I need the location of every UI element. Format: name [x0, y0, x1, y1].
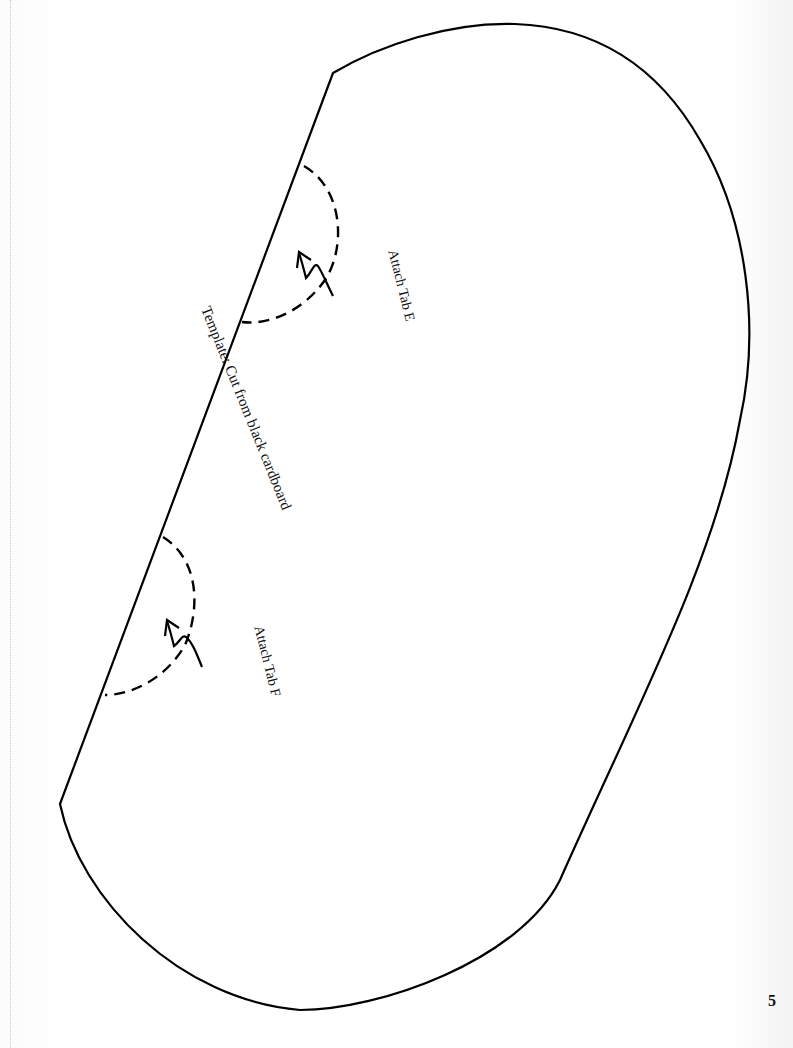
template-cut-outline — [60, 24, 749, 1010]
tab-e-arrowhead-icon — [297, 252, 311, 268]
document-page: Template: Cut from black cardboard Attac… — [0, 0, 793, 1048]
tab-f-arrowhead-icon — [165, 620, 179, 636]
tab-f-curved-arrow-icon — [167, 621, 202, 667]
template-outline — [0, 0, 793, 1048]
page-number: 5 — [768, 992, 776, 1010]
tab-e-curved-arrow-icon — [299, 253, 333, 296]
